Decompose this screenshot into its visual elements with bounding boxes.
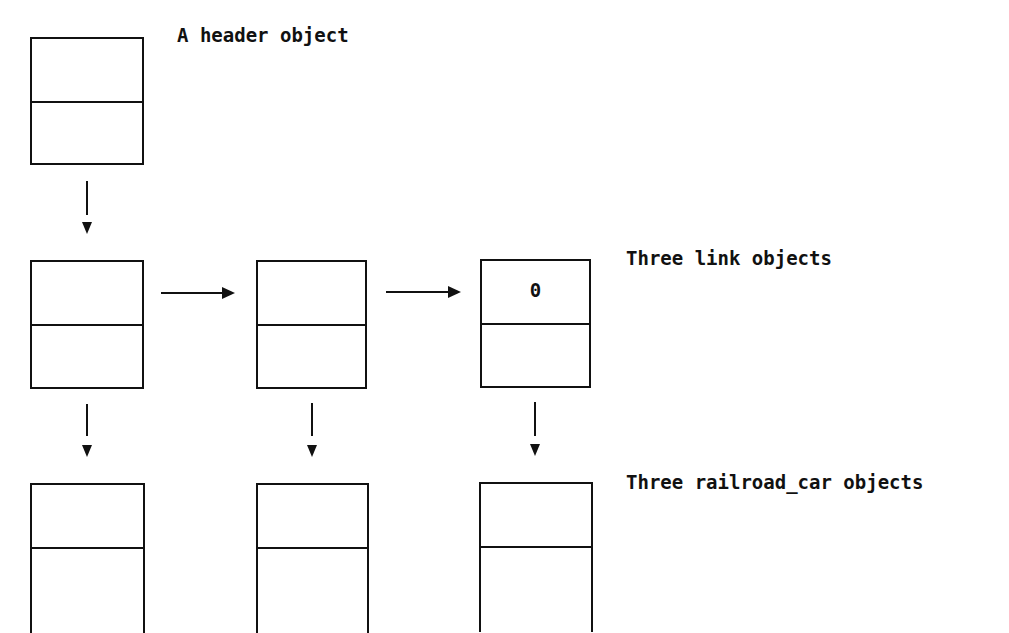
arrow-right-icon xyxy=(386,286,461,298)
arrow-down-icon xyxy=(307,403,317,457)
arrow-down-icon xyxy=(82,404,92,457)
arrow-down-icon xyxy=(82,181,92,234)
arrow-down-icon xyxy=(530,402,540,456)
arrow-right-icon xyxy=(161,287,235,299)
